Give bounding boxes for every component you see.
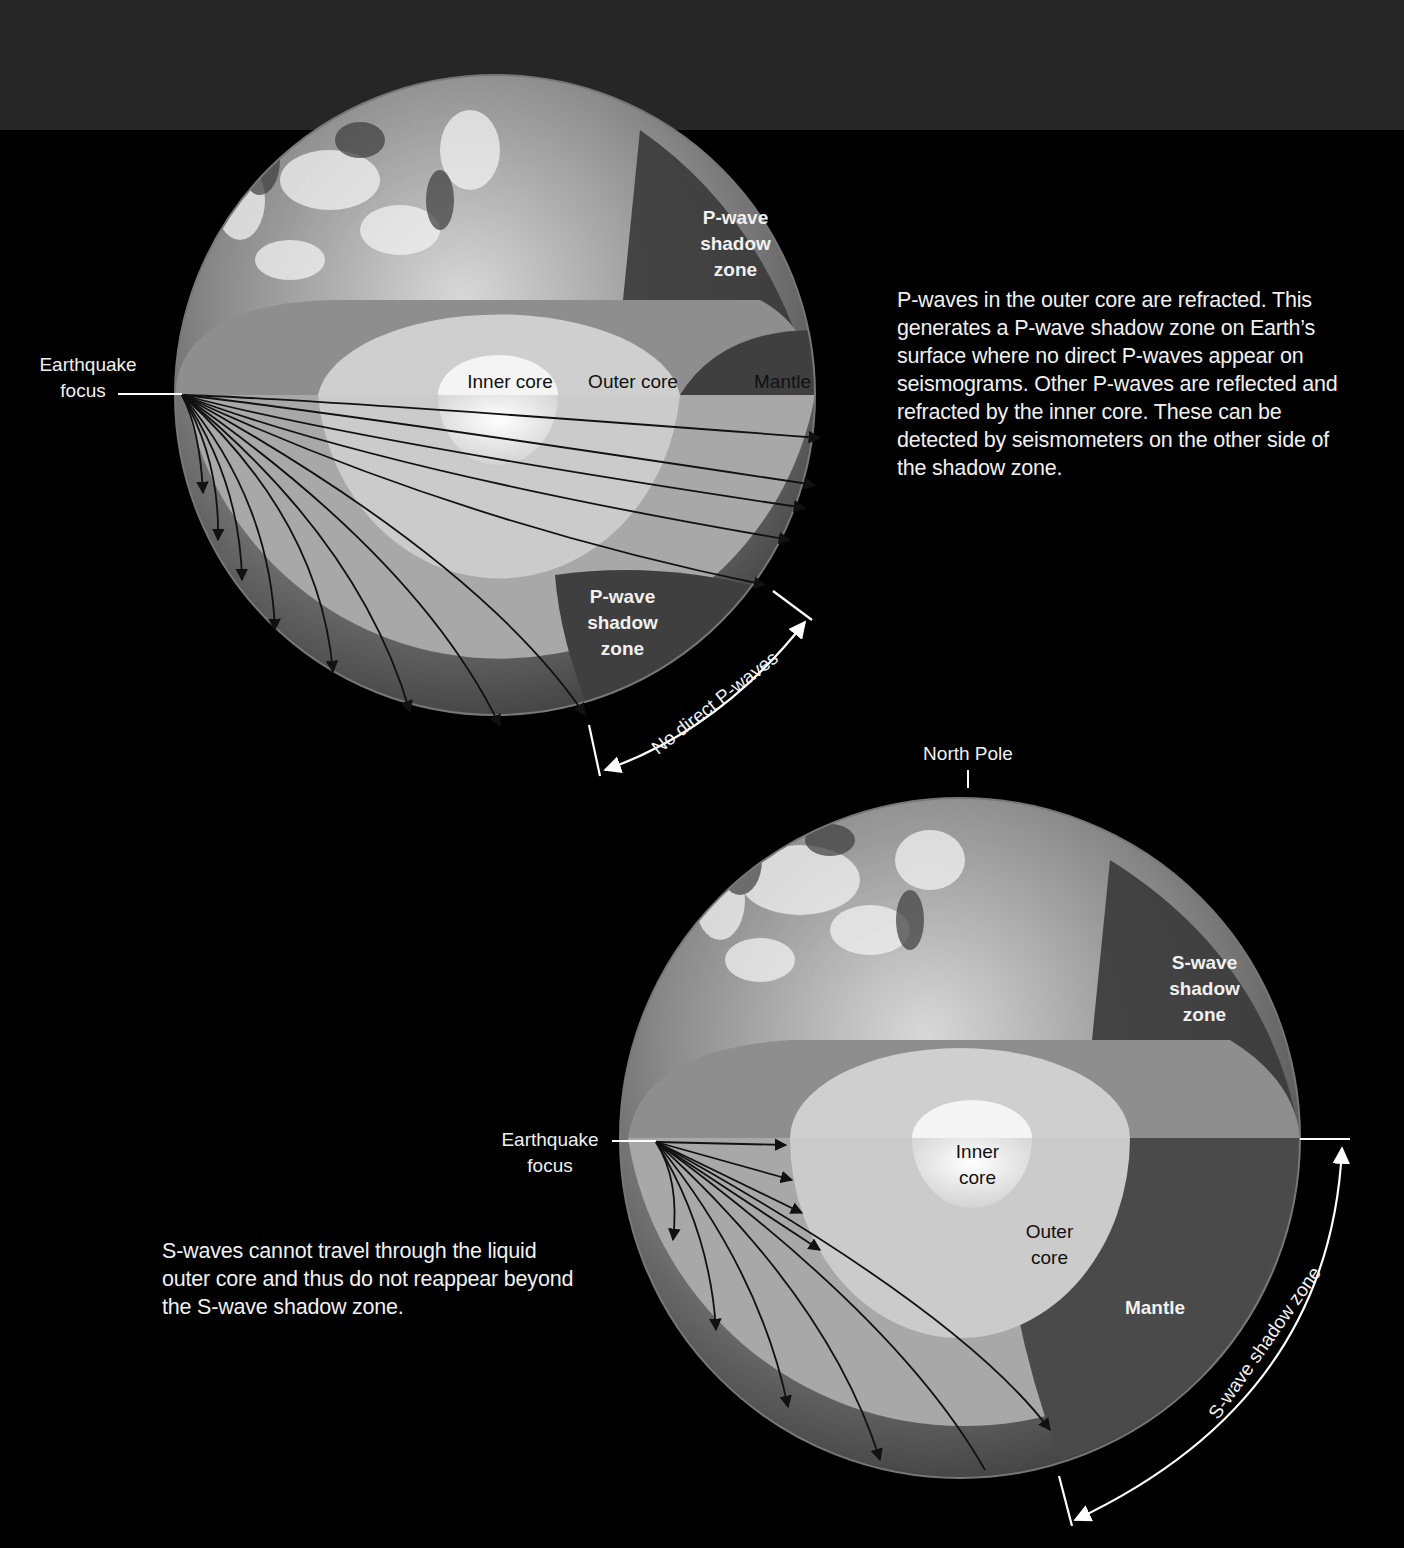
p-shadow-zone-surface-label: P-wave shadow zone xyxy=(693,205,778,283)
p-desc-line: detected by seismometers on the other si… xyxy=(897,426,1377,454)
outer-core-label-bottom: Outer core xyxy=(1012,1219,1087,1271)
mantle-label-bottom: Mantle xyxy=(1110,1295,1200,1321)
s-wave-description: S-waves cannot travel through the liquid… xyxy=(162,1237,622,1321)
p-wave-description: P-waves in the outer core are refracted.… xyxy=(897,286,1377,482)
inner-core-label-top: Inner core xyxy=(455,369,565,395)
mantle-label-top: Mantle xyxy=(745,369,820,395)
inner-core-label-bottom: Inner core xyxy=(940,1139,1015,1191)
north-pole-label: North Pole xyxy=(908,741,1028,767)
p-desc-line: P-waves in the outer core are refracted.… xyxy=(897,286,1377,314)
s-shadow-zone-surface-label: S-wave shadow zone xyxy=(1162,950,1247,1028)
outer-core-label-top: Outer core xyxy=(578,369,688,395)
p-desc-line: refracted by the inner core. These can b… xyxy=(897,398,1377,426)
earthquake-focus-label-top: Earthquake focus xyxy=(28,352,148,404)
p-wave-globe xyxy=(118,75,820,776)
s-desc-line: outer core and thus do not reappear beyo… xyxy=(162,1265,622,1293)
s-desc-line: the S-wave shadow zone. xyxy=(162,1293,622,1321)
p-desc-line: the shadow zone. xyxy=(897,454,1377,482)
earthquake-focus-label-bottom: Earthquake focus xyxy=(490,1127,610,1179)
p-desc-line: generates a P-wave shadow zone on Earth’… xyxy=(897,314,1377,342)
s-desc-line: S-waves cannot travel through the liquid xyxy=(162,1237,622,1265)
p-desc-line: surface where no direct P-waves appear o… xyxy=(897,342,1377,370)
p-desc-line: seismograms. Other P-waves are reflected… xyxy=(897,370,1377,398)
p-shadow-zone-interior-label: P-wave shadow zone xyxy=(580,584,665,662)
